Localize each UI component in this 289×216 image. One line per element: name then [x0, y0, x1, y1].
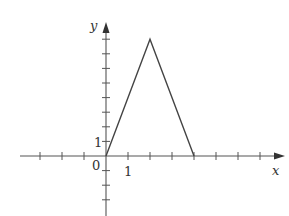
y-unit-label: 1	[94, 135, 102, 150]
y-axis-label: y	[89, 18, 98, 33]
axes	[20, 22, 285, 216]
triangle-graph: y x 0 1 1	[0, 0, 289, 216]
x-unit-label: 1	[124, 164, 132, 179]
x-axis-label: x	[272, 163, 280, 178]
axis-ticks	[40, 39, 260, 200]
triangle-line	[106, 39, 194, 156]
origin-label: 0	[92, 158, 100, 173]
